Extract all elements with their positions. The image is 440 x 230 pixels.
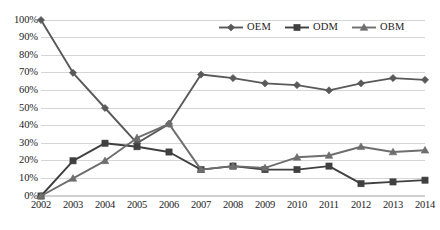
data-point — [293, 82, 300, 89]
plot-area — [41, 20, 425, 196]
y-axis-tick-label: 100% — [0, 15, 38, 26]
data-point — [294, 167, 300, 173]
series-obm — [37, 120, 429, 199]
x-axis-tick-label: 2002 — [24, 200, 58, 211]
y-axis-tick-label: 20% — [0, 155, 38, 166]
data-point — [422, 177, 428, 183]
x-axis-tick-label: 2008 — [216, 200, 250, 211]
triangle-marker-icon — [351, 22, 377, 33]
data-point — [102, 140, 108, 146]
data-point — [229, 74, 236, 81]
y-axis-tick-label: 80% — [0, 50, 38, 61]
legend-label: ODM — [313, 22, 338, 33]
y-axis-tick-label: 50% — [0, 103, 38, 114]
x-axis-tick-label: 2012 — [344, 200, 378, 211]
data-point — [421, 76, 428, 83]
x-axis-tick-label: 2006 — [152, 200, 186, 211]
legend-item-oem[interactable]: OEM — [218, 22, 271, 33]
x-axis: 2002200320042005200620072008200920102011… — [41, 200, 425, 220]
x-axis-tick-label: 2010 — [280, 200, 314, 211]
legend-label: OBM — [380, 22, 405, 33]
x-axis-tick-label: 2005 — [120, 200, 154, 211]
x-axis-tick-label: 2011 — [312, 200, 346, 211]
data-point — [70, 158, 76, 164]
data-point — [358, 181, 364, 187]
legend-item-obm[interactable]: OBM — [351, 22, 405, 33]
y-axis-tick-label: 70% — [0, 67, 38, 78]
data-point — [326, 163, 332, 169]
x-axis-tick-label: 2003 — [56, 200, 90, 211]
y-axis: 0%10%20%30%40%50%60%70%80%90%100% — [0, 20, 38, 196]
data-series-group — [41, 20, 425, 196]
series-oem — [37, 16, 428, 146]
y-axis-tick-label: 40% — [0, 120, 38, 131]
x-axis-tick-label: 2009 — [248, 200, 282, 211]
data-point — [261, 80, 268, 87]
series-line — [41, 124, 425, 196]
data-point — [357, 80, 364, 87]
data-point — [389, 74, 396, 81]
y-axis-tick-label: 90% — [0, 32, 38, 43]
x-axis-tick-label: 2014 — [408, 200, 440, 211]
y-axis-tick-label: 10% — [0, 173, 38, 184]
data-point — [166, 149, 172, 155]
legend-item-odm[interactable]: ODM — [284, 22, 338, 33]
x-axis-tick-label: 2004 — [88, 200, 122, 211]
x-axis-tick-label: 2007 — [184, 200, 218, 211]
series-line — [41, 143, 425, 196]
square-marker-icon — [284, 22, 310, 33]
y-axis-tick-label: 30% — [0, 138, 38, 149]
legend-label: OEM — [247, 22, 271, 33]
chart-legend: OEMODMOBM — [218, 22, 405, 33]
data-point — [325, 87, 332, 94]
diamond-marker-icon — [218, 22, 244, 33]
x-axis-tick-label: 2013 — [376, 200, 410, 211]
y-axis-tick-label: 60% — [0, 85, 38, 96]
data-point — [390, 179, 396, 185]
data-point — [134, 144, 140, 150]
